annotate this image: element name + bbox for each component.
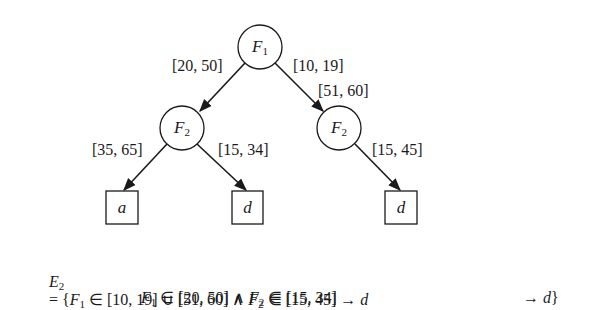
formula-line-2-result: → d} — [515, 274, 559, 306]
leaf-d-right-label: d — [385, 199, 417, 216]
node-f1-var: F — [252, 37, 262, 56]
node-f1-index: 1 — [262, 45, 268, 57]
node-f2-right-index: 2 — [341, 126, 347, 138]
formula-l2-f1: F — [141, 289, 151, 306]
leaf-d-left-label: d — [232, 199, 263, 216]
node-f2-right-var: F — [331, 118, 341, 137]
node-f1-label: F1 — [246, 38, 274, 57]
formula-l2-part2: ∈ [15, 34] — [264, 289, 337, 306]
formula-l2-part1: ∈ [20, 50] ∧ — [156, 289, 249, 306]
edge-label-root-left: [20, 50] — [172, 58, 223, 74]
formula-open: = { — [49, 291, 70, 308]
formula-lhs-var: E — [49, 273, 59, 290]
formula-l1-result: d — [360, 291, 368, 308]
edge-label-right-child: [15, 45] — [372, 142, 423, 158]
formula-l2-f2: F — [249, 289, 259, 306]
node-f2-left-index: 2 — [184, 126, 190, 138]
edge-label-root-right-2: [51, 60] — [318, 83, 369, 99]
edge-label-root-right-1: [10, 19] — [293, 58, 344, 74]
formula-l2-result: d — [543, 289, 551, 306]
edge-label-left-left: [35, 65] — [92, 142, 143, 158]
node-f2-right-label: F2 — [325, 119, 353, 138]
formula-l2-arrow: → — [523, 289, 543, 306]
formula-close: } — [551, 289, 559, 306]
edge-label-left-right: [15, 34] — [218, 142, 269, 158]
node-f2-left-var: F — [174, 118, 184, 137]
formula-line-2: F1 ∈ [20, 50] ∧ F2 ∈ [15, 34] — [133, 274, 337, 308]
leaf-a-label: a — [106, 199, 138, 216]
node-f2-left-label: F2 — [168, 119, 196, 138]
